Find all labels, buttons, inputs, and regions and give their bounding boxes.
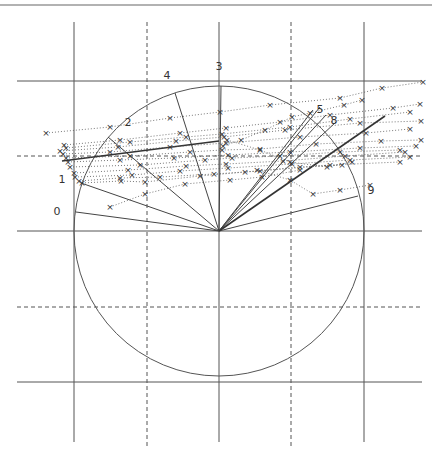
radial-plot-figure: ××××××××××××××××××××××××××××××××××××××××… (0, 0, 446, 457)
x-marker: × (170, 153, 178, 163)
x-marker: × (181, 179, 189, 189)
x-marker: × (358, 95, 366, 105)
x-marker: × (286, 175, 294, 185)
x-marker: × (166, 142, 174, 152)
x-marker: × (396, 157, 404, 167)
x-marker: × (141, 177, 149, 187)
x-marker: × (306, 108, 314, 118)
spoke-label-4: 4 (164, 69, 171, 82)
x-marker: × (417, 116, 425, 126)
x-marker: × (261, 125, 269, 135)
x-marker: × (237, 135, 245, 145)
x-marker: × (336, 185, 344, 195)
spoke-line-1 (81, 183, 219, 231)
x-marker: × (166, 113, 174, 123)
x-marker: × (288, 112, 296, 122)
spoke-labels: 01243985 (54, 60, 375, 218)
x-marker: × (116, 155, 124, 165)
x-marker: × (78, 178, 86, 188)
x-marker: × (362, 128, 370, 138)
x-marker: × (406, 152, 414, 162)
x-marker: × (253, 165, 261, 175)
x-marker: × (406, 107, 414, 117)
x-marker: × (42, 128, 50, 138)
x-marker: × (196, 171, 204, 181)
spoke-label-2: 2 (125, 116, 132, 129)
spoke-line-5 (219, 107, 320, 231)
x-marker: × (419, 77, 427, 87)
x-marker: × (378, 83, 386, 93)
spoke-label-8: 8 (331, 114, 338, 127)
x-marker: × (338, 160, 346, 170)
x-marker: × (226, 175, 234, 185)
x-marker: × (117, 176, 125, 186)
x-marker: × (114, 142, 122, 152)
x-marker: × (224, 163, 232, 173)
spoke-label-3: 3 (216, 60, 223, 73)
x-marker: × (406, 124, 414, 134)
x-marker: × (186, 147, 194, 157)
x-marker: × (416, 99, 424, 109)
x-marker: × (141, 189, 149, 199)
x-marker: × (309, 189, 317, 199)
x-marker: × (389, 103, 397, 113)
spoke-label-0: 0 (54, 205, 61, 218)
x-marker: × (136, 160, 144, 170)
x-marker: × (281, 125, 289, 135)
x-marker: × (106, 202, 114, 212)
x-marker: × (128, 170, 136, 180)
x-marker: × (356, 118, 364, 128)
x-marker: × (256, 145, 264, 155)
x-marker: × (348, 157, 356, 167)
x-marker: × (266, 100, 274, 110)
series-trace (46, 82, 423, 133)
x-marker: × (296, 165, 304, 175)
x-marker: × (201, 155, 209, 165)
x-marker: × (286, 157, 294, 167)
x-marker: × (176, 166, 184, 176)
x-marker: × (106, 122, 114, 132)
x-marker: × (126, 151, 134, 161)
x-marker: × (241, 167, 249, 177)
x-marker: × (296, 132, 304, 142)
x-marker: × (323, 162, 331, 172)
x-marker: × (412, 141, 420, 151)
x-marker: × (340, 100, 348, 110)
x-marker: × (356, 143, 364, 153)
x-marker: × (312, 139, 320, 149)
spoke-label-5: 5 (317, 103, 324, 116)
x-marker: × (210, 169, 218, 179)
x-marker: × (216, 107, 224, 117)
spoke-label-9: 9 (368, 184, 375, 197)
x-marker: × (377, 136, 385, 146)
x-marker: × (106, 147, 114, 157)
spoke-label-1: 1 (59, 173, 66, 186)
x-marker: × (223, 135, 231, 145)
x-marker: × (346, 114, 354, 124)
spoke-line-9 (219, 196, 358, 231)
